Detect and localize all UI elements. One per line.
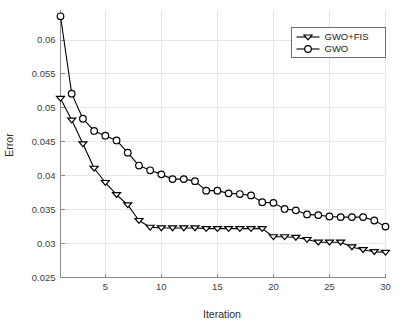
data-point-marker	[371, 217, 378, 224]
data-point-marker	[169, 176, 176, 183]
data-point-marker	[214, 187, 221, 194]
data-point-marker	[225, 190, 232, 197]
x-tick-label: 30	[380, 281, 391, 292]
y-tick-label: 0.05	[37, 102, 56, 113]
y-tick-label: 0.055	[32, 68, 56, 79]
data-point-marker	[192, 178, 199, 185]
data-point-marker	[91, 128, 98, 135]
circle-marker-icon	[305, 46, 312, 53]
data-point-marker	[259, 199, 266, 206]
data-point-marker	[326, 213, 333, 220]
y-axis-tick-labels: 0.0250.030.0350.040.0450.050.0550.06	[32, 34, 56, 282]
data-point-marker	[80, 115, 87, 122]
data-point-marker	[270, 200, 277, 207]
data-point-marker	[180, 176, 187, 183]
y-tick-label: 0.045	[32, 136, 56, 147]
data-point-marker	[101, 180, 109, 185]
x-tick-label: 25	[324, 281, 335, 292]
data-point-marker	[124, 203, 132, 208]
y-tick-label: 0.04	[37, 170, 56, 181]
x-axis-title: Iteration	[203, 308, 241, 320]
data-point-marker	[79, 142, 87, 147]
data-point-marker	[304, 211, 311, 218]
data-point-marker	[136, 162, 143, 169]
data-point-marker	[124, 149, 131, 156]
data-point-marker	[102, 132, 109, 139]
x-axis-tick-labels: 51015202530	[103, 281, 391, 292]
data-point-marker	[315, 212, 322, 219]
x-tick-label: 5	[103, 281, 108, 292]
x-tick-label: 10	[156, 281, 167, 292]
data-point-marker	[248, 192, 255, 199]
legend-label: GWO+FIS	[325, 31, 369, 42]
x-tick-label: 15	[212, 281, 223, 292]
y-tick-label: 0.025	[32, 272, 56, 283]
data-point-marker	[113, 137, 120, 144]
data-point-marker	[349, 214, 356, 221]
y-tick-label: 0.03	[37, 238, 56, 249]
data-point-marker	[237, 191, 244, 198]
data-point-marker	[360, 214, 367, 221]
data-point-marker	[382, 223, 389, 230]
chart-figure: 0.0250.030.0350.040.0450.050.0550.06 510…	[0, 0, 405, 329]
data-point-marker	[337, 214, 344, 221]
data-point-marker	[281, 206, 288, 213]
data-point-marker	[147, 167, 154, 174]
data-point-marker	[203, 187, 210, 194]
data-point-marker	[57, 96, 65, 101]
data-point-marker	[158, 171, 165, 178]
convergence-line-chart: 0.0250.030.0350.040.0450.050.0550.06 510…	[0, 0, 405, 329]
chart-legend[interactable]: GWO+FISGWO	[292, 28, 386, 58]
data-point-marker	[57, 13, 64, 20]
y-tick-label: 0.06	[37, 34, 56, 45]
legend-label: GWO	[325, 43, 349, 54]
data-point-marker	[68, 90, 75, 97]
y-axis-title: Error	[3, 133, 15, 157]
data-point-marker	[68, 118, 76, 123]
y-tick-label: 0.035	[32, 204, 56, 215]
data-point-marker	[90, 166, 98, 171]
x-tick-label: 20	[268, 281, 279, 292]
data-point-marker	[293, 207, 300, 214]
